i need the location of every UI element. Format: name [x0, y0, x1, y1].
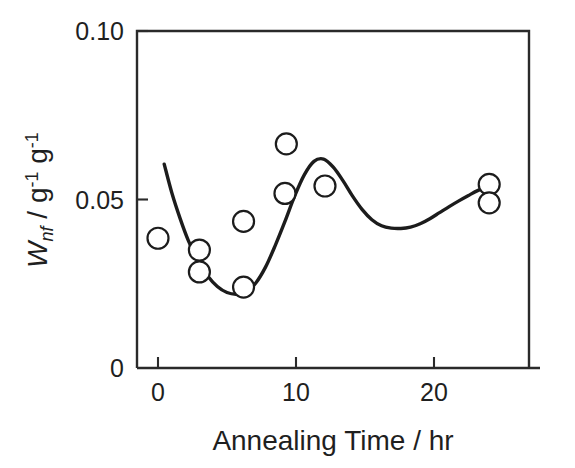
y-axis-ticks [137, 31, 148, 200]
data-point-marker [479, 192, 500, 213]
x-axis-ticks [158, 357, 434, 368]
y-tick-label-0.1: 0.10 [75, 17, 124, 45]
data-point-marker [233, 211, 254, 232]
y-axis-title: Wnf / g-1 g-1 [22, 132, 57, 268]
data-point-marker [314, 176, 335, 197]
data-point-marker [274, 183, 295, 204]
data-point-marker [276, 133, 297, 154]
chart-svg: 00.050.10 01020 Annealing Time / hr Wnf … [0, 0, 575, 468]
x-tick-label-0: 0 [151, 378, 165, 406]
data-point-marker [189, 240, 210, 261]
data-point-marker [233, 277, 254, 298]
plot-frame [137, 31, 529, 368]
chart-figure: 00.050.10 01020 Annealing Time / hr Wnf … [0, 0, 575, 468]
svg-text:Wnf / g-1 g-1: Wnf / g-1 g-1 [22, 132, 57, 268]
x-tick-label-20: 20 [420, 378, 448, 406]
x-tick-label-10: 10 [282, 378, 310, 406]
x-axis-title: Annealing Time / hr [212, 425, 453, 456]
y-axis-title-exponent-1: -1 [22, 171, 42, 187]
y-axis-title-symbol: W [22, 239, 53, 268]
x-axis-tick-labels: 01020 [151, 378, 448, 406]
data-point-marker [148, 228, 169, 249]
y-axis-tick-labels: 00.050.10 [75, 17, 124, 382]
y-axis-title-units-a: / g [22, 188, 53, 227]
y-tick-label-0: 0 [110, 354, 124, 382]
y-tick-label-0.05: 0.05 [75, 186, 124, 214]
y-axis-title-units-b: g [22, 148, 53, 171]
y-axis-title-exponent-2: -1 [22, 132, 42, 148]
data-point-marker [189, 261, 210, 282]
